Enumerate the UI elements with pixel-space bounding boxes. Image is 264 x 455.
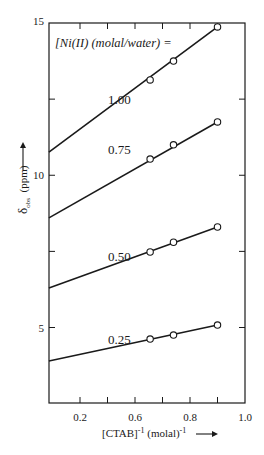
x-tick-label: 0.6 (128, 411, 142, 423)
x-axis-label-text: [CTAB]-1 (molal)-1 (102, 426, 186, 440)
y-axis-label: δobs (ppm) (15, 142, 32, 214)
y-tick-label: 10 (33, 169, 45, 181)
series-label: 0.75 (108, 142, 131, 157)
data-point-marker (147, 156, 153, 162)
data-point-marker (147, 249, 153, 255)
data-point-marker (214, 119, 220, 125)
data-point-marker (170, 239, 176, 245)
data-point-marker (170, 58, 176, 64)
x-axis-ticks: 0.20.60.81.0 (73, 23, 252, 423)
series-0.50: 0.50 (49, 224, 221, 288)
data-point-marker (170, 332, 176, 338)
data-point-marker (214, 24, 220, 30)
y-axis-arrowhead-icon (20, 142, 26, 148)
data-point-marker (214, 322, 220, 328)
series-label: 1.00 (108, 92, 131, 107)
y-tick-label: 5 (39, 322, 45, 334)
data-point-marker (170, 142, 176, 148)
y-axis-label-text: δobs (ppm) (15, 165, 32, 214)
fit-line (49, 227, 218, 288)
chart: 0.20.60.81.0 15105 1.000.750.500.25 [Ni(… (0, 0, 264, 455)
fit-line (49, 122, 218, 218)
series-0.25: 0.25 (49, 322, 221, 361)
data-point-marker (147, 336, 153, 342)
fit-line (49, 325, 218, 361)
legend-title: [Ni(II) (molal/water) = (55, 36, 172, 50)
series-label: 0.25 (108, 332, 131, 347)
x-axis-label: [CTAB]-1 (molal)-1 (102, 426, 218, 440)
data-point-marker (147, 77, 153, 83)
y-axis-ticks: 15105 (33, 15, 245, 334)
x-tick-label: 1.0 (238, 411, 252, 423)
series-label: 0.50 (108, 249, 131, 264)
data-point-marker (214, 224, 220, 230)
y-tick-label: 15 (33, 15, 45, 27)
data-series: 1.000.750.500.25 (49, 24, 221, 361)
x-tick-label: 0.2 (73, 411, 87, 423)
x-axis-arrowhead-icon (212, 431, 218, 437)
x-tick-label: 0.8 (183, 411, 197, 423)
